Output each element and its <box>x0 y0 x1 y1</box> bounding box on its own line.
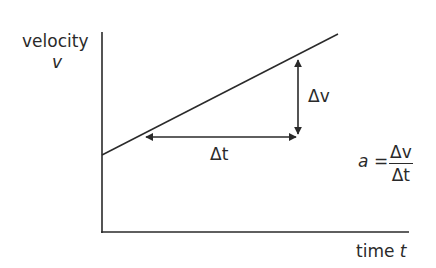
formula-fraction: Δv Δt <box>389 142 413 185</box>
formula-lhs: a <box>358 153 368 170</box>
formula-equals: = <box>374 153 388 170</box>
x-axis-symbol: t <box>400 241 407 261</box>
formula-denominator: Δt <box>389 164 413 185</box>
x-axis-label-text: time <box>356 241 394 261</box>
formula-numerator: Δv <box>389 142 413 164</box>
y-axis-label: velocity <box>22 33 88 50</box>
delta-t-label: Δt <box>210 146 228 163</box>
delta-v-label: Δv <box>308 88 330 105</box>
y-axis-symbol: v <box>52 54 62 71</box>
x-axis-label: time t <box>356 243 407 260</box>
